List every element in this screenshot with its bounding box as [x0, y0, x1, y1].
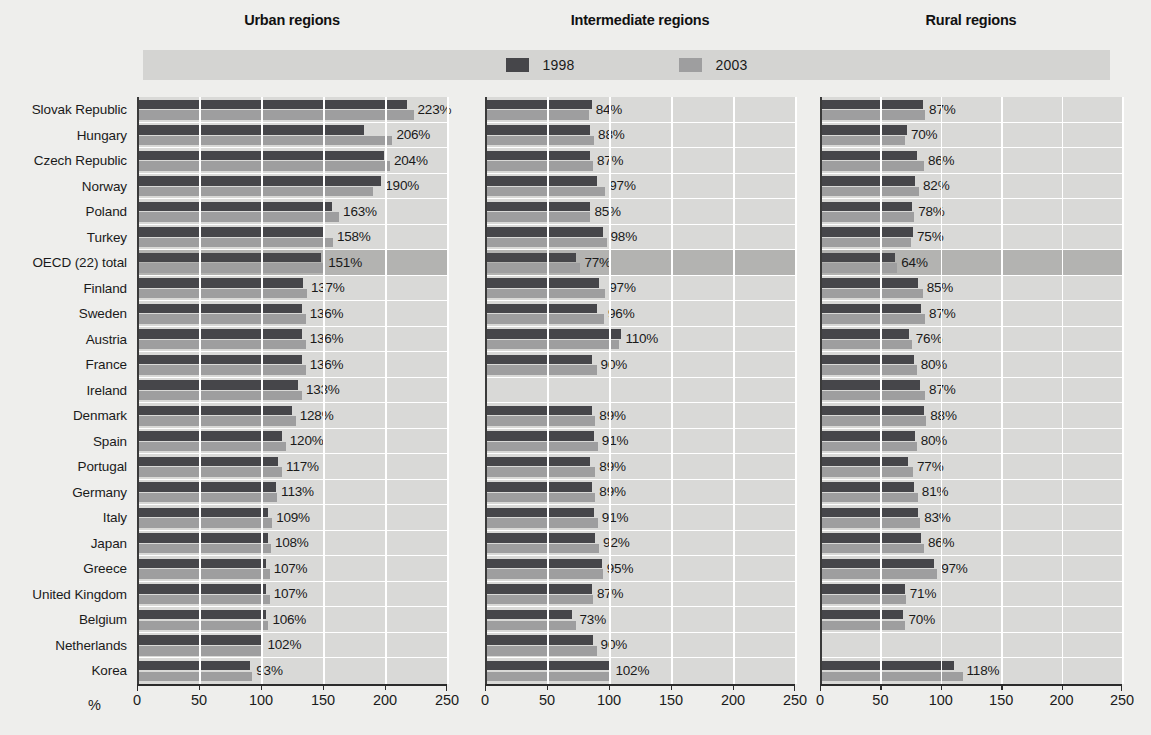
gridline	[795, 97, 797, 684]
bar-1998	[820, 482, 914, 492]
bar-value-label: 77%	[917, 459, 943, 474]
chart-row: 136%	[137, 327, 447, 353]
bar-1998	[820, 176, 915, 186]
chart-row: 163%	[137, 199, 447, 225]
bar-value-label: 136%	[310, 357, 344, 372]
bar-value-label: 96%	[608, 306, 634, 321]
bar-value-label: 82%	[923, 178, 949, 193]
bar-2003	[820, 289, 923, 299]
axis-tick	[385, 684, 386, 690]
bar-value-label: 113%	[281, 484, 314, 499]
bar-1998	[137, 482, 276, 492]
category-label: Germany	[0, 480, 133, 506]
bar-2003	[485, 672, 609, 682]
category-axis-labels: Slovak RepublicHungaryCzech RepublicNorw…	[0, 97, 133, 684]
chart-row: 80%	[820, 429, 1122, 455]
bar-2003	[137, 238, 333, 248]
category-label: Italy	[0, 505, 133, 531]
axis-tick-label: 200	[373, 692, 397, 708]
bar-2003	[137, 493, 277, 503]
chart-row: 71%	[820, 582, 1122, 608]
axis-line	[820, 684, 1122, 686]
bar-value-label: 93%	[256, 663, 282, 678]
chart-row: 87%	[485, 582, 795, 608]
bar-1998	[485, 355, 592, 365]
panel-title-rural: Rural regions	[820, 12, 1122, 28]
bar-value-label: 89%	[599, 484, 625, 499]
chart-row: 97%	[485, 174, 795, 200]
x-axis-unit-label: %	[88, 697, 101, 713]
bar-1998	[485, 559, 602, 569]
bar-2003	[137, 391, 302, 401]
bar-value-label: 136%	[310, 331, 344, 346]
bar-value-label: 90%	[601, 637, 627, 652]
bar-1998	[485, 610, 572, 620]
bar-value-label: 151%	[328, 255, 362, 270]
chart-row: 96%	[485, 301, 795, 327]
axis-tick-label: 200	[721, 692, 745, 708]
bar-1998	[485, 329, 621, 339]
bar-value-label: 118%	[967, 663, 1000, 678]
chart-row: 85%	[820, 276, 1122, 302]
bar-2003	[485, 314, 604, 324]
axis-tick	[137, 684, 138, 691]
chart-row: 102%	[485, 658, 795, 684]
axis-tick	[941, 684, 942, 690]
chart-row: 137%	[137, 276, 447, 302]
bar-1998	[485, 151, 590, 161]
bar-2003	[485, 416, 595, 426]
bar-1998	[485, 100, 592, 110]
chart-row: 85%	[485, 199, 795, 225]
bar-2003	[820, 110, 925, 120]
bar-value-label: 87%	[929, 102, 955, 117]
bar-value-label: 106%	[272, 612, 306, 627]
bar-2003	[820, 493, 918, 503]
bar-value-label: 80%	[921, 357, 947, 372]
bar-1998	[137, 202, 332, 212]
chart-row: 78%	[820, 199, 1122, 225]
bar-value-label: 73%	[580, 612, 606, 627]
bar-1998	[820, 533, 921, 543]
chart-row: 158%	[137, 225, 447, 251]
bar-2003	[137, 187, 373, 197]
bar-1998	[137, 100, 407, 110]
axis-tick-label: 50	[539, 692, 555, 708]
chart-row: 70%	[820, 123, 1122, 149]
chart-row: 86%	[820, 531, 1122, 557]
bar-value-label: 92%	[603, 535, 629, 550]
bar-1998	[820, 125, 907, 135]
bar-2003	[485, 340, 619, 350]
category-label: Belgium	[0, 607, 133, 633]
bar-2003	[137, 646, 263, 656]
bar-value-label: 223%	[418, 102, 452, 117]
axis-tick-label: 100	[249, 692, 273, 708]
bar-2003	[820, 161, 924, 171]
bar-2003	[485, 493, 595, 503]
bar-2003	[820, 136, 905, 146]
bar-1998	[485, 227, 603, 237]
panel-title-urban: Urban regions	[137, 12, 447, 28]
chart-row: 110%	[485, 327, 795, 353]
bar-1998	[820, 100, 923, 110]
bar-1998	[137, 151, 384, 161]
category-label: Czech Republic	[0, 148, 133, 174]
bar-1998	[485, 125, 590, 135]
chart-row: 136%	[137, 352, 447, 378]
axis-tick-label: 150	[659, 692, 683, 708]
category-label: United Kingdom	[0, 582, 133, 608]
chart-row: 204%	[137, 148, 447, 174]
bar-2003	[137, 365, 306, 375]
chart-row: 133%	[137, 378, 447, 404]
axis-tick	[820, 684, 821, 691]
bar-1998	[137, 304, 302, 314]
chart-row: 83%	[820, 505, 1122, 531]
chart-panel-intermediate: 84%88%87%97%85%98%77%97%96%110%90%89%91%…	[485, 97, 795, 684]
bar-value-label: 128%	[300, 408, 334, 423]
bar-value-label: 117%	[286, 459, 319, 474]
bar-2003	[485, 263, 580, 273]
bar-value-label: 97%	[941, 561, 967, 576]
bar-1998	[485, 584, 592, 594]
bar-2003	[485, 238, 607, 248]
bar-value-label: 109%	[276, 510, 310, 525]
chart-row: 92%	[485, 531, 795, 557]
